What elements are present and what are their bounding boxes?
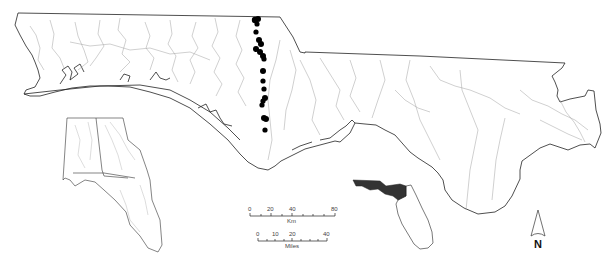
sample-site [261, 86, 266, 91]
study-area-map [0, 0, 605, 266]
scale-mi-unit: Miles [285, 243, 299, 249]
scale-bar-km [250, 213, 335, 216]
sample-site [253, 29, 258, 34]
sample-site [258, 41, 264, 47]
scale-km-tick-40: 40 [289, 206, 296, 212]
sample-sites [252, 16, 269, 133]
scale-bar-miles [258, 238, 327, 241]
sample-site [262, 127, 267, 132]
north-arrow-icon [531, 210, 545, 236]
locator-inset [63, 118, 162, 252]
scale-mi-tick-10: 10 [272, 231, 279, 237]
sample-site [261, 56, 266, 61]
sample-site [255, 16, 261, 22]
locator-inset-rivers [75, 122, 148, 232]
scale-km-tick-0: 0 [248, 206, 251, 212]
rivers [30, 18, 588, 210]
sample-site [259, 102, 264, 107]
north-label: N [534, 238, 542, 250]
sample-site [260, 68, 266, 74]
sample-site [254, 21, 259, 26]
scale-mi-tick-40: 40 [323, 231, 330, 237]
scale-km-unit: Km [287, 218, 296, 224]
scale-mi-tick-20: 20 [289, 231, 296, 237]
study-area-boundary [15, 13, 601, 214]
florida-inset [353, 180, 433, 249]
scale-km-tick-80: 80 [331, 206, 338, 212]
scale-mi-tick-0: 0 [256, 231, 259, 237]
sample-site [263, 116, 269, 122]
sample-site [260, 78, 265, 83]
scale-km-tick-20: 20 [267, 206, 274, 212]
